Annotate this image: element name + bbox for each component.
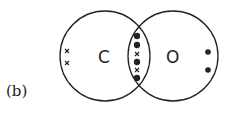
part-label: (b)	[6, 82, 27, 100]
oxygen-lone-electrons	[205, 49, 211, 73]
oxygen-symbol: O	[166, 47, 179, 67]
carbon-symbol: C	[98, 47, 110, 67]
carbon-lone-electrons	[65, 49, 69, 65]
venn-diagram	[0, 0, 229, 117]
shared-electrons	[134, 33, 139, 80]
